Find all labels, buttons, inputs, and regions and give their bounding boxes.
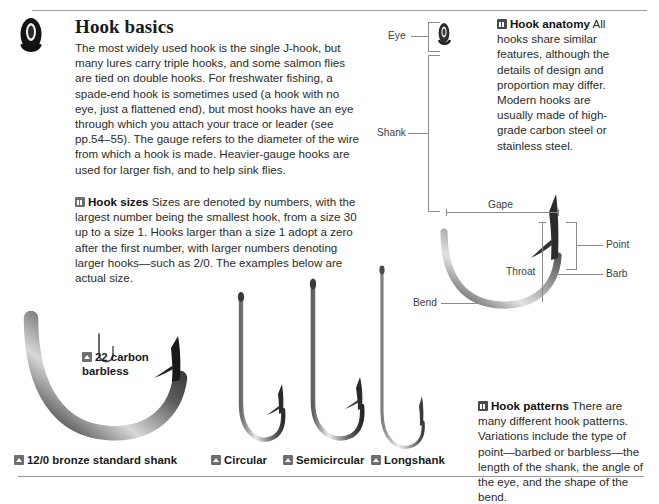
anatomy-label-eye: Eye [388, 30, 406, 41]
caption-label: Longshank [384, 454, 445, 466]
hook-image-semicircular [300, 278, 370, 453]
eye-bracket-bottom [428, 51, 440, 52]
gape-cap-right [558, 209, 559, 216]
photo-icon [371, 455, 381, 465]
caption-label: Circular [224, 454, 267, 466]
hook-sizes-body: Sizes are denoted by numbers, with the l… [75, 195, 357, 284]
caption-semicircular: Semicircular [283, 453, 364, 467]
hook-image-longshank [372, 262, 432, 454]
anatomy-label-bend: Bend [413, 297, 437, 308]
hook-anatomy-block: Hook anatomy All hooks share similar fea… [497, 16, 619, 153]
point-leader [576, 245, 603, 246]
grid-square-icon [478, 401, 488, 411]
point-bracket-top [566, 222, 577, 223]
gape-measure-line [446, 212, 559, 213]
shank-bracket-top [428, 55, 440, 56]
photo-icon [283, 455, 293, 465]
eye-bracket-vertical [428, 22, 429, 52]
hook-anatomy-body: All hooks share similar features, althou… [497, 17, 609, 152]
point-bracket-bottom [566, 269, 577, 270]
shank-bracket-bottom [428, 211, 440, 212]
caption-label: Semicircular [296, 454, 364, 466]
eye-leader [411, 36, 429, 37]
anatomy-label-throat: Throat [504, 266, 537, 277]
eye-bracket-top [428, 22, 440, 23]
caption-circular: Circular [211, 453, 267, 467]
caption-label: 12/0 bronze standard shank [27, 454, 177, 466]
hook-anatomy-lead: Hook anatomy [510, 17, 590, 30]
photo-icon [82, 352, 92, 362]
caption-carbon-barbless: 22 carbon barbless [82, 350, 174, 378]
caption-bronze-standard-shank: 12/0 bronze standard shank [14, 453, 177, 467]
bend-leader [441, 303, 484, 304]
throat-measure-line [542, 222, 543, 302]
hook-sizes-block: Hook sizes Sizes are denoted by numbers,… [75, 194, 359, 285]
point-bracket-vertical [576, 222, 577, 270]
photo-icon [14, 455, 24, 465]
intro-paragraph: The most widely used hook is the single … [75, 40, 359, 177]
throat-cap-top [539, 222, 546, 223]
hook-patterns-lead: Hook patterns [491, 399, 569, 412]
anatomy-label-point: Point [606, 239, 629, 250]
shank-leader [408, 133, 429, 134]
anatomy-label-shank: Shank [377, 127, 406, 138]
top-divider [32, 10, 647, 11]
hook-patterns-block: Hook patterns There are many different h… [478, 398, 650, 504]
gape-cap-left [446, 209, 447, 216]
grid-square-icon [497, 19, 507, 29]
caption-longshank: Longshank [371, 453, 445, 467]
hook-image-circular [228, 292, 288, 452]
hook-sizes-lead: Hook sizes [88, 195, 149, 208]
anatomy-label-gape: Gape [485, 199, 516, 210]
page-title: Hook basics [75, 16, 174, 38]
photo-icon [211, 455, 221, 465]
grid-square-icon [75, 197, 85, 207]
caption-label: 22 carbon barbless [82, 351, 149, 377]
hook-patterns-body: There are many different hook patterns. … [478, 399, 643, 503]
anatomy-label-barb: Barb [606, 268, 628, 279]
barb-leader [556, 274, 603, 275]
